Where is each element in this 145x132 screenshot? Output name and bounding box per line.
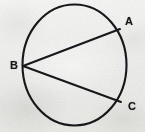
vertex-label-b: B (10, 60, 18, 71)
circle-outline (23, 5, 127, 126)
chord-b-to-a (23, 29, 120, 66)
geometry-drawing (0, 0, 145, 132)
vertex-label-c: C (128, 101, 136, 112)
geometry-figure-canvas: A B C (0, 0, 145, 132)
chord-b-to-c (23, 66, 121, 102)
vertex-label-a: A (125, 16, 133, 27)
